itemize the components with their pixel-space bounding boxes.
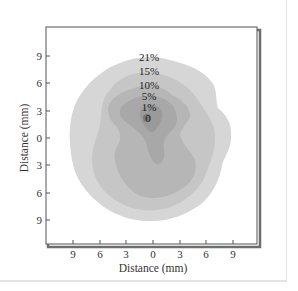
y-tick-label: 9 (37, 50, 43, 62)
x-tick-label: 9 (230, 248, 236, 260)
x-tick-labels: 9 6 3 0 3 6 9 (70, 248, 236, 260)
y-tick-label: 0 (37, 132, 43, 144)
y-tick-label: 9 (37, 214, 43, 226)
y-tick-label: 3 (37, 159, 43, 171)
y-axis-title: Distance (mm) (18, 104, 31, 173)
x-tick-label: 3 (177, 248, 183, 260)
x-tick-label: 9 (70, 248, 76, 260)
x-tick-label: 6 (97, 248, 103, 260)
x-axis-title: Distance (mm) (119, 262, 188, 275)
contour-chart: 21% 15% 10% 5% 1% 0 9 6 3 0 3 6 9 Distan… (0, 0, 298, 291)
contour-label-0: 0 (145, 112, 151, 124)
x-tick-label: 3 (123, 248, 129, 260)
contour-label-21: 21% (139, 51, 159, 63)
y-tick-label: 6 (37, 187, 43, 199)
x-tick-label: 6 (203, 248, 209, 260)
y-tick-label: 6 (37, 77, 43, 89)
y-tick-labels: 9 6 3 0 3 6 9 (37, 50, 43, 226)
y-tick-label: 3 (37, 105, 43, 117)
contour-label-15: 15% (139, 65, 159, 77)
x-tick-label: 0 (150, 248, 156, 260)
